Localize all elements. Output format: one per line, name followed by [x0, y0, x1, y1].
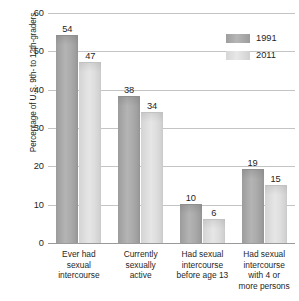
bar-1991-4 — [242, 169, 264, 243]
bar-highlight — [79, 63, 101, 72]
bar-group: 106 — [180, 13, 225, 243]
legend-label-2011: 2011 — [256, 50, 276, 60]
legend-label-1991: 1991 — [256, 33, 277, 43]
bar-2011-1 — [79, 62, 101, 243]
bar-highlight — [141, 113, 163, 122]
y-tick-label-20: 20 — [34, 161, 44, 171]
bar-1991-2 — [118, 96, 140, 243]
bar-value-label-2011-4: 15 — [270, 174, 280, 184]
bar-group: 5447 — [56, 13, 101, 243]
chart-legend: 1991 2011 — [226, 31, 292, 65]
bar-2011-3 — [203, 219, 225, 243]
plot-area: 0102030405060 544738341061915 1991 2011 — [48, 13, 295, 243]
bar-highlight — [56, 36, 78, 45]
legend-item-2011: 2011 — [226, 48, 292, 62]
y-tick-label-10: 10 — [34, 200, 44, 210]
y-tick-label-30: 30 — [34, 123, 44, 133]
bar-value-label-1991-4: 19 — [247, 158, 257, 168]
bar-value-label-2011-1: 47 — [85, 51, 95, 61]
bar-value-label-1991-3: 10 — [186, 193, 196, 203]
bar-1991-3 — [180, 204, 202, 243]
bar-highlight — [118, 97, 140, 106]
bar-2011-2 — [141, 112, 163, 243]
bar-value-label-1991-2: 38 — [124, 85, 134, 95]
legend-swatch-icon-2011 — [226, 51, 250, 60]
bar-value-label-1991-1: 54 — [62, 24, 72, 34]
y-axis-title: Percentage of U.S. 9th- to 12th-graders — [29, 3, 38, 163]
x-category-label-4: Had sexualintercoursewith 4 ormore perso… — [227, 249, 299, 291]
y-tick-label-50: 50 — [34, 46, 44, 56]
legend-swatch-icon-1991 — [226, 34, 250, 43]
y-tick-label-40: 40 — [34, 85, 44, 95]
gridline-0 — [48, 243, 295, 244]
y-tick-label-60: 60 — [34, 8, 44, 18]
bar-highlight — [242, 170, 264, 179]
bar-chart: Percentage of U.S. 9th- to 12th-graders … — [0, 0, 299, 301]
bar-value-label-2011-3: 6 — [211, 208, 216, 218]
bar-highlight — [203, 220, 225, 229]
bar-2011-4 — [265, 185, 287, 244]
x-axis-category-labels: Ever hadsexualintercourseCurrentlysexual… — [48, 249, 295, 301]
bar-highlight — [265, 186, 287, 195]
bar-group: 3834 — [118, 13, 163, 243]
bar-highlight — [180, 205, 202, 214]
bar-value-label-2011-2: 34 — [147, 101, 157, 111]
legend-item-1991: 1991 — [226, 31, 292, 45]
bar-1991-1 — [56, 35, 78, 243]
y-tick-label-0: 0 — [39, 238, 44, 248]
